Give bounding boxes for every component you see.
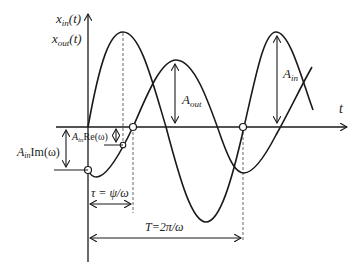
x-axis-label: t: [339, 101, 344, 116]
zero-crossing-marker-1: [130, 124, 137, 131]
period-label: T=2π/ω: [145, 220, 184, 234]
re-label: AinRe(ω): [71, 131, 108, 144]
a-out-label: Aout: [181, 92, 202, 109]
im-label: AinIm(ω): [16, 145, 60, 160]
y-axis-label-in: xin(t): [55, 11, 81, 28]
tau-label: τ = ψ/ω: [91, 186, 129, 200]
output-signal-curve: [88, 60, 312, 177]
y-axis-label-out: xout(t): [51, 31, 82, 48]
phase-shift-diagram: xin(t) xout(t) t Ain Aout AinRe(ω) AinIm…: [0, 0, 364, 275]
a-in-label: Ain: [282, 66, 298, 83]
zero-crossing-marker-2: [240, 124, 247, 131]
